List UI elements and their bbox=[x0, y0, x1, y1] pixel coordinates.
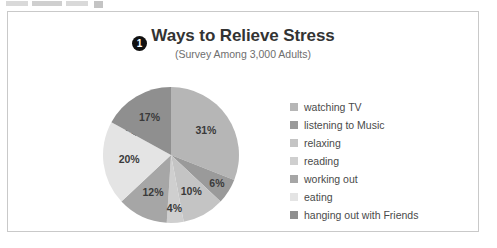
pie-chart-svg: 31%6%10%4%12%20%17% bbox=[98, 82, 244, 228]
legend-label: reading bbox=[304, 155, 339, 167]
legend-label: hanging out with Friends bbox=[304, 209, 418, 221]
legend-item[interactable]: eating bbox=[290, 188, 418, 206]
pie-slice-label: 6% bbox=[209, 177, 225, 189]
legend-swatch bbox=[290, 121, 298, 129]
legend-swatch bbox=[290, 193, 298, 201]
legend-label: relaxing bbox=[304, 137, 341, 149]
pie-slice-label: 4% bbox=[167, 202, 183, 214]
legend-item[interactable]: watching TV bbox=[290, 98, 418, 116]
toolbar-fragment-icon bbox=[94, 1, 103, 8]
chart-subtitle: (Survey Among 3,000 Adults) bbox=[8, 47, 478, 62]
pie-slice-label: 10% bbox=[181, 185, 203, 197]
legend-swatch bbox=[290, 157, 298, 165]
legend-item[interactable]: reading bbox=[290, 152, 418, 170]
pie-slice-label: 17% bbox=[139, 111, 161, 123]
legend-swatch bbox=[290, 103, 298, 111]
chart-panel: Ways to Relieve Stress (Survey Among 3,0… bbox=[7, 11, 479, 232]
legend-label: eating bbox=[304, 191, 333, 203]
pie-slice-label: 31% bbox=[195, 124, 217, 136]
legend-item[interactable]: relaxing bbox=[290, 134, 418, 152]
callout-marker-1: 1 bbox=[132, 36, 147, 51]
legend-item[interactable]: hanging out with Friends bbox=[290, 206, 418, 224]
toolbar-fragment-bar bbox=[32, 1, 62, 6]
pie-chart: 31%6%10%4%12%20%17% bbox=[98, 82, 244, 228]
legend-label: listening to Music bbox=[304, 119, 385, 131]
legend-swatch bbox=[290, 175, 298, 183]
chart-legend: watching TVlistening to Musicrelaxingrea… bbox=[290, 98, 418, 224]
chart-title: Ways to Relieve Stress bbox=[8, 26, 478, 46]
legend-label: watching TV bbox=[304, 101, 362, 113]
legend-label: working out bbox=[304, 173, 358, 185]
pie-slice-label: 12% bbox=[142, 186, 164, 198]
toolbar-fragment-bar bbox=[66, 1, 88, 6]
legend-item[interactable]: working out bbox=[290, 170, 418, 188]
legend-swatch bbox=[290, 211, 298, 219]
legend-swatch bbox=[290, 139, 298, 147]
toolbar-fragment bbox=[6, 1, 104, 8]
legend-item[interactable]: listening to Music bbox=[290, 116, 418, 134]
chart-header: Ways to Relieve Stress (Survey Among 3,0… bbox=[8, 26, 478, 62]
pie-slice-label: 20% bbox=[119, 153, 141, 165]
toolbar-fragment-bar bbox=[6, 1, 28, 6]
